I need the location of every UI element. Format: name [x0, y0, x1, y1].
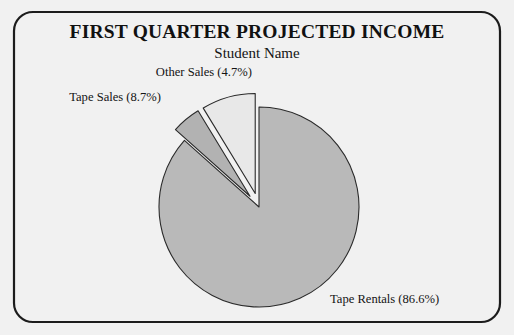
pie-label-tape-rentals: Tape Rentals (86.6%): [330, 292, 439, 306]
chart-canvas: FIRST QUARTER PROJECTED INCOME Student N…: [0, 0, 514, 335]
pie-label-tape-sales: Tape Sales (8.7%): [69, 90, 161, 104]
pie-label-other-sales: Other Sales (4.7%): [156, 65, 252, 79]
chart-subtitle: Student Name: [214, 45, 300, 61]
chart-title: FIRST QUARTER PROJECTED INCOME: [70, 21, 445, 42]
